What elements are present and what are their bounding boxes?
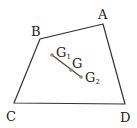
- quadrilateral-diagram: A B C D G1 G G2: [0, 0, 137, 128]
- label-g1-sub: 1: [66, 53, 70, 61]
- label-g2-sub: 2: [95, 78, 99, 86]
- label-g1-main: G: [56, 45, 66, 60]
- label-c: C: [6, 109, 16, 124]
- point-g1: [50, 53, 54, 57]
- label-a: A: [97, 7, 108, 22]
- label-g2: G2: [85, 70, 100, 86]
- label-g2-main: G: [85, 70, 95, 85]
- point-g2: [79, 75, 83, 79]
- label-g1: G1: [56, 45, 71, 61]
- label-g: G: [72, 56, 82, 71]
- label-d: D: [120, 110, 130, 125]
- label-b: B: [31, 24, 41, 39]
